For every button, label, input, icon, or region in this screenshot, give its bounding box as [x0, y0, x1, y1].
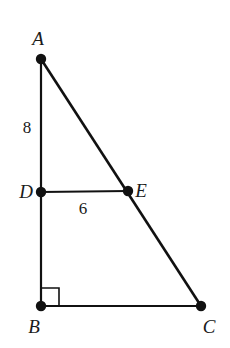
vertex-dot-c — [196, 301, 206, 311]
vertex-dot-b — [36, 301, 46, 311]
vertex-label-a: A — [30, 28, 44, 49]
vertex-label-b: B — [28, 316, 40, 337]
edge-de-midsegment — [41, 191, 128, 192]
vertex-dot-a — [36, 54, 46, 64]
vertex-label-d: D — [18, 181, 33, 202]
vertex-label-c: C — [203, 316, 216, 337]
geometry-diagram-canvas: A B C D E 8 6 — [0, 0, 230, 348]
vertex-dot-e — [123, 186, 133, 196]
geometry-figure-container: A B C D E 8 6 — [0, 0, 230, 348]
measurement-label-de: 6 — [79, 199, 88, 218]
vertex-label-e: E — [134, 180, 147, 201]
vertex-dot-d — [36, 187, 46, 197]
measurement-label-ad: 8 — [23, 118, 32, 137]
